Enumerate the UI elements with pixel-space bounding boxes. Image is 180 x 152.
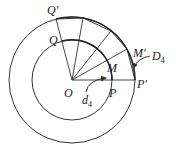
label-p: P: [108, 86, 117, 100]
label-q-prime: Q': [47, 3, 59, 17]
label-d4-small: d4: [82, 93, 92, 109]
radius-om-prime: [72, 49, 127, 80]
outer-chord-path: [56, 18, 135, 80]
radius-4: [72, 18, 83, 80]
radius-oq-prime: [56, 19, 72, 80]
outer-arc-thick: [56, 17, 135, 80]
concentric-circle-diagram: Q' Q M' M O P P' d4 D4: [0, 0, 180, 152]
diagram-canvas: Q' Q M' M O P P' d4 D4: [0, 0, 180, 152]
inner-arc-thick: [62, 40, 112, 80]
label-p-prime: P': [136, 77, 147, 91]
label-m: M: [106, 61, 118, 75]
radius-3: [72, 31, 111, 80]
label-m-prime: M': [132, 46, 146, 60]
label-D4-big: D4: [151, 49, 165, 65]
label-o: O: [64, 86, 73, 100]
label-q: Q: [49, 33, 58, 47]
